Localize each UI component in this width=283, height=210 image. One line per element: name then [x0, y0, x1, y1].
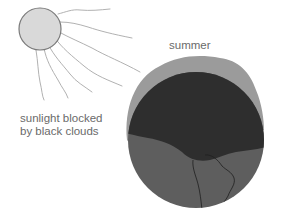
blocked-sunlight-label: sunlight blocked by black clouds: [20, 112, 102, 138]
diagram-svg: [0, 0, 283, 210]
sun-icon: [19, 8, 61, 50]
diagram-canvas: summer sunlight blocked by black clouds: [0, 0, 283, 210]
blocked-label-line-1: sunlight blocked: [20, 112, 102, 125]
blocked-label-line-2: by black clouds: [20, 125, 102, 138]
season-label: summer: [169, 39, 211, 52]
